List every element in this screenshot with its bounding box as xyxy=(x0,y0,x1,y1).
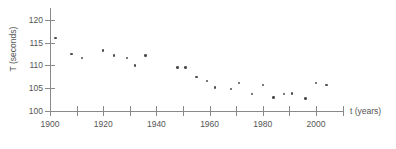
data-point xyxy=(251,93,254,96)
data-point xyxy=(184,66,187,69)
data-point xyxy=(102,49,105,52)
x-axis-tick xyxy=(130,106,131,116)
x-axis-tick xyxy=(183,106,184,116)
x-axis-tick xyxy=(316,106,317,116)
y-axis-tick xyxy=(45,43,55,44)
data-point xyxy=(272,96,275,99)
data-point xyxy=(304,97,307,100)
data-point xyxy=(206,80,209,83)
data-point xyxy=(134,64,137,67)
x-axis-title: t (years) xyxy=(350,106,381,116)
x-axis-line xyxy=(50,111,343,112)
y-axis-tick xyxy=(45,65,55,66)
x-axis-tick xyxy=(210,106,211,116)
data-point xyxy=(238,82,241,85)
scatter-chart: 100105110115120 190019201940196019802000… xyxy=(0,0,396,149)
x-axis-tick-label: 1920 xyxy=(83,119,123,129)
x-axis-tick xyxy=(156,106,157,116)
x-axis-tick-label: 1940 xyxy=(136,119,176,129)
y-axis-tick xyxy=(45,20,55,21)
data-point xyxy=(113,54,116,57)
x-axis-tick xyxy=(50,106,51,116)
data-point xyxy=(195,76,198,79)
x-axis-tick xyxy=(236,106,237,116)
y-axis-tick xyxy=(45,88,55,89)
data-point xyxy=(176,66,179,69)
y-axis-line xyxy=(50,8,51,112)
data-point xyxy=(230,88,233,91)
data-point xyxy=(126,57,129,60)
data-point xyxy=(214,86,217,89)
data-point xyxy=(70,53,73,56)
x-axis-tick xyxy=(289,106,290,116)
y-axis-tick-label: 120 xyxy=(19,16,43,24)
y-axis-title: T (seconds) xyxy=(8,14,18,84)
data-point xyxy=(291,92,294,95)
data-point xyxy=(262,84,265,87)
x-axis-tick-label: 1980 xyxy=(243,119,283,129)
x-axis-tick-label: 1900 xyxy=(30,119,70,129)
data-point xyxy=(81,57,84,60)
x-axis-tick-label: 2000 xyxy=(296,119,336,129)
data-point xyxy=(144,54,147,57)
y-axis-tick-label: 115 xyxy=(19,39,43,47)
data-point xyxy=(315,82,318,85)
x-axis-tick xyxy=(343,106,344,116)
y-axis-tick-label: 100 xyxy=(19,107,43,115)
data-point xyxy=(54,37,57,40)
x-axis-tick xyxy=(103,106,104,116)
y-axis-tick-label: 105 xyxy=(19,84,43,92)
x-axis-tick xyxy=(263,106,264,116)
data-point xyxy=(283,93,286,96)
data-point xyxy=(325,84,328,87)
x-axis-tick-label: 1960 xyxy=(190,119,230,129)
y-axis-tick-label: 110 xyxy=(19,61,43,69)
x-axis-tick xyxy=(77,106,78,116)
